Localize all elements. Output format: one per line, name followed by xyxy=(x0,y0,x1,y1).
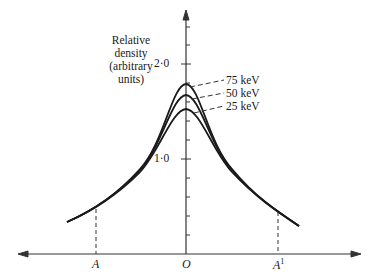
density-profile-chart xyxy=(0,0,375,277)
x-label-a-prime-sup: 1 xyxy=(280,257,284,266)
x-label-a-prime: A1 xyxy=(273,257,284,273)
curve-25kev xyxy=(67,109,299,226)
x-label-origin: O xyxy=(182,257,191,272)
y-axis-title-line: units) xyxy=(92,73,170,86)
curve-75kev xyxy=(67,84,299,226)
y-axis xyxy=(181,10,191,254)
y-tick-1: 1·0 xyxy=(154,152,169,164)
series-label-50kev: 50 keV xyxy=(226,87,260,99)
y-axis-title-line: Relative xyxy=(92,34,170,47)
curve-50kev xyxy=(67,95,299,226)
x-label-a: A xyxy=(92,257,99,272)
series-label-75kev: 75 keV xyxy=(226,74,260,86)
y-tick-2: 2·0 xyxy=(154,57,169,69)
series-leaders xyxy=(190,80,224,113)
series-label-25kev: 25 keV xyxy=(226,100,260,112)
